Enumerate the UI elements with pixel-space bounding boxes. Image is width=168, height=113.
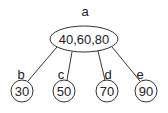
child-node-key: 50 xyxy=(57,84,71,99)
child-node-key: 70 xyxy=(100,84,114,99)
child-node-name: e xyxy=(136,67,143,82)
root-node-keys: 40,60,80 xyxy=(59,32,110,47)
child-node-e: e90 xyxy=(135,67,157,102)
child-node-d: d70 xyxy=(96,67,118,102)
edge-a-c xyxy=(67,52,72,80)
edge-a-b xyxy=(28,47,57,81)
child-node-c: c50 xyxy=(53,67,75,102)
root-node-name: a xyxy=(81,4,89,19)
child-node-key: 90 xyxy=(139,84,153,99)
tree-diagram: a 40,60,80 b30c50d70e90 xyxy=(0,0,168,113)
child-nodes: b30c50d70e90 xyxy=(11,67,157,102)
child-node-b: b30 xyxy=(11,67,33,102)
child-node-key: 30 xyxy=(15,84,29,99)
root-node: a 40,60,80 xyxy=(50,4,118,52)
